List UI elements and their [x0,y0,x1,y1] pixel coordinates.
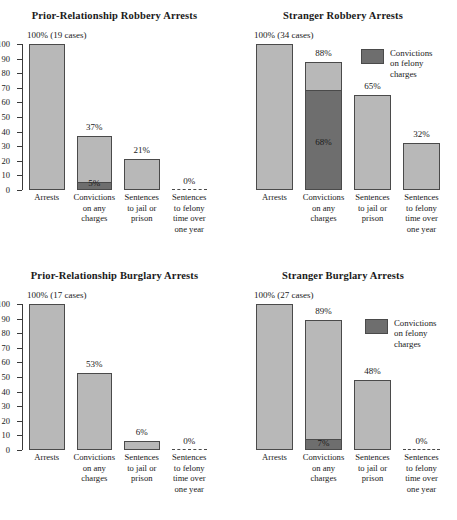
chart-panel-prior-relationship-burglary: Prior-Relationship Burglary Arrests 1009… [0,260,229,520]
y-axis-tick: 80 [17,333,22,334]
plot-area: 1009080706050403020100 100% (19 cases)5%… [22,44,212,190]
bar[interactable] [29,44,65,190]
chart-panel-stranger-robbery: Stranger Robbery Arrests 100% (34 cases)… [229,0,457,260]
y-axis-tick: 0 [17,450,22,451]
bar[interactable]: 7% [305,320,342,450]
bar-value-label: 21% [118,146,166,155]
x-axis-label: Sentences to jail or prison [118,192,166,224]
x-axis-label: Arrests [250,192,299,203]
bar-value-label: 100% (27 cases) [254,291,313,300]
bar-value-label: 6% [118,428,166,437]
x-axis-labels: ArrestsConvictions on any chargesSentenc… [250,192,446,254]
x-axis-label: Sentences to felony time over one year [166,192,214,234]
x-axis-label: Convictions on any charges [71,192,119,224]
y-axis-tick-label: 90 [2,314,11,323]
bar-slot: 0% [166,304,214,450]
x-axis-labels: ArrestsConvictions on any chargesSentenc… [23,452,213,514]
x-axis-label: Convictions on any charges [71,452,119,484]
bar-value-label-felony: 5% [78,179,112,188]
legend-swatch-felony [365,319,388,334]
x-axis-labels: ArrestsConvictions on any chargesSentenc… [23,192,213,254]
x-axis-label: Convictions on any charges [299,192,348,224]
bar-value-label: 0% [397,437,446,446]
plot-area: 1009080706050403020100 100% (17 cases)53… [22,304,212,450]
y-axis-tick: 20 [17,421,22,422]
bar-value-label: 0% [166,177,214,186]
bar[interactable] [77,373,113,450]
bar[interactable] [124,441,160,450]
y-axis-tick-label: 70 [2,344,11,353]
bar-slot: 53% [71,304,119,450]
bar[interactable] [354,380,391,450]
x-axis-label: Arrests [23,192,71,203]
bar[interactable] [124,159,160,190]
zero-baseline-dashes [172,189,208,190]
y-axis-tick-label: 10 [2,431,11,440]
y-axis-tick: 30 [17,406,22,407]
bar-slot: 21% [118,44,166,190]
y-axis-tick: 80 [17,73,22,74]
bar[interactable] [403,143,440,190]
bar-slot: 7%89% [299,304,348,450]
bar-slot: 6% [118,304,166,450]
bar-segment-felony[interactable]: 68% [306,90,341,189]
bar-value-label: 89% [299,307,348,316]
bar-value-label: 0% [166,437,214,446]
bar-series: 100% (17 cases)53%6%0% [23,304,212,450]
chart-title: Prior-Relationship Burglary Arrests [0,270,229,281]
bar-value-label: 100% (19 cases) [27,31,86,40]
chart-grid: Prior-Relationship Robbery Arrests 10090… [0,0,457,520]
chart-title: Stranger Burglary Arrests [229,270,457,281]
y-axis-tick-label: 60 [2,98,11,107]
y-axis-tick: 20 [17,161,22,162]
bar[interactable] [256,44,293,190]
x-axis-label: Convictions on any charges [299,452,348,484]
y-axis-tick: 0 [17,190,22,191]
y-axis-tick: 90 [17,59,22,60]
y-axis-tick: 50 [17,377,22,378]
y-axis-tick-label: 0 [6,446,10,455]
bar-segment-felony[interactable]: 7% [306,439,341,449]
bar-value-label: 100% (34 cases) [254,31,313,40]
bar-slot: 68%88% [299,44,348,190]
x-axis-labels: ArrestsConvictions on any chargesSentenc… [250,452,446,514]
y-axis-tick: 70 [17,88,22,89]
bar-slot: 5%37% [71,44,119,190]
bar-slot: 100% (17 cases) [23,304,71,450]
bar-series: 100% (19 cases)5%37%21%0% [23,44,212,190]
y-axis-tick-label: 50 [2,113,11,122]
y-axis-tick: 40 [17,132,22,133]
y-axis-tick-label: 0 [6,186,10,195]
x-axis-label: Sentences to jail or prison [118,452,166,484]
y-axis-tick: 60 [17,362,22,363]
y-axis-tick: 60 [17,102,22,103]
bar-value-label: 48% [348,367,397,376]
x-axis-label: Sentences to felony time over one year [397,192,446,234]
y-axis-tick: 10 [17,175,22,176]
x-axis-label: Sentences to jail or prison [348,452,397,484]
bar[interactable] [29,304,65,450]
bar-slot: 100% (27 cases) [250,304,299,450]
x-axis-label: Sentences to felony time over one year [166,452,214,494]
y-axis-tick-label: 80 [2,69,11,78]
bar-value-label: 65% [348,82,397,91]
chart-panel-prior-relationship-robbery: Prior-Relationship Robbery Arrests 10090… [0,0,229,260]
y-axis-tick: 30 [17,146,22,147]
bar[interactable] [256,304,293,450]
zero-baseline-dashes [172,449,208,450]
bar-value-label: 32% [397,130,446,139]
bar-value-label: 53% [71,360,119,369]
y-axis-tick: 100 [17,44,22,45]
y-axis-tick: 10 [17,435,22,436]
y-axis-tick-label: 100 [0,40,10,49]
y-axis-tick: 90 [17,319,22,320]
y-axis-tick-label: 10 [2,171,11,180]
bar-value-label: 100% (17 cases) [27,291,86,300]
bar-segment-felony[interactable]: 5% [78,182,112,189]
y-axis-tick-label: 20 [2,157,11,166]
bar[interactable]: 5% [77,136,113,190]
bar[interactable]: 68% [305,62,342,190]
y-axis-tick: 100 [17,304,22,305]
bar[interactable] [354,95,391,190]
bar-slot: 100% (34 cases) [250,44,299,190]
